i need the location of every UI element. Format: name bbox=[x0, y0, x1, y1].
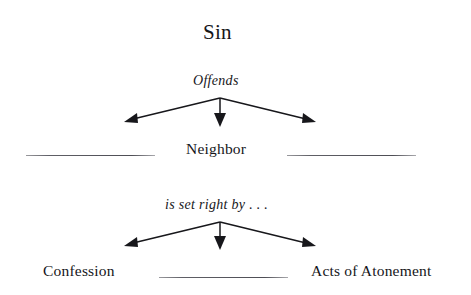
node-acts-of-atonement: Acts of Atonement bbox=[311, 263, 432, 279]
arrow-atonement-middle bbox=[214, 222, 226, 250]
node-confession: Confession bbox=[43, 263, 115, 279]
arrow-atonement-right bbox=[220, 222, 316, 247]
arrow-atonement-left bbox=[124, 222, 220, 247]
diagram-canvas: Sin Offends Neighbor is set right by . .… bbox=[0, 0, 471, 295]
blank-line-level2-center[interactable] bbox=[159, 277, 288, 278]
arrow-group-is-set-right-by bbox=[0, 0, 471, 295]
